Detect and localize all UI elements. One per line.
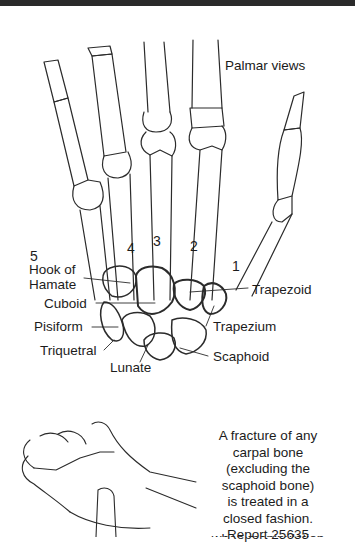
caption-line: (excluding the: [198, 461, 338, 478]
figure-title: Palmar views: [225, 58, 305, 73]
digit-2-bones: [189, 40, 226, 300]
caption-line: closed fashion.: [198, 511, 338, 528]
metacarpal-number-4: 4: [127, 240, 135, 256]
caption-line: scaphoid bone): [198, 478, 338, 495]
metacarpal-number-2: 2: [190, 238, 198, 254]
caption-line: A fracture of any: [198, 428, 338, 445]
label-pisiform: Pisiform: [34, 319, 83, 334]
hand-exam-sketch: [22, 422, 196, 537]
caption-line: is treated in a: [198, 494, 338, 511]
label-triquetral: Triquetral: [40, 343, 97, 358]
label-scaphoid: Scaphoid: [213, 349, 269, 364]
label-hook-of-hamate-line2: Hamate: [29, 277, 76, 292]
label-trapezoid: Trapezoid: [252, 282, 312, 297]
caption-line: carpal bone: [198, 445, 338, 462]
metacarpal-number-3: 3: [153, 233, 161, 249]
digit-3-bones: [141, 42, 176, 300]
label-hook-of-hamate-line1: Hook of: [29, 262, 76, 277]
digit-1-bones: [236, 92, 304, 296]
label-lunate: Lunate: [110, 360, 151, 375]
metacarpal-number-1: 1: [232, 258, 240, 274]
caption-text: A fracture of any carpal bone (excluding…: [198, 428, 338, 544]
caption-cutoff-line: when manipulation: [198, 531, 338, 537]
digit-4-bones: [88, 46, 134, 300]
carpal-bones: [101, 266, 227, 360]
label-cuboid: Cuboid: [44, 296, 87, 311]
label-trapezium: Trapezium: [213, 319, 276, 334]
